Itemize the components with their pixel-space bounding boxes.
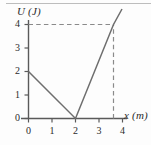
plot-area	[0, 0, 151, 145]
x-tick-label-2: 2	[69, 125, 83, 136]
x-tick-label-3: 3	[92, 125, 106, 136]
x-tick-label-0: 0	[22, 125, 36, 136]
x-tick-label-1: 1	[45, 125, 59, 136]
y-tick-label-1: 1	[10, 89, 20, 100]
potential-energy-graph-figure: U (J) x (m) 0 1 2 3 4 0 1 2 3 4	[0, 0, 151, 145]
y-tick-label-2: 2	[10, 65, 20, 76]
y-tick-label-3: 3	[10, 42, 20, 53]
y-axis-title: U (J)	[17, 5, 41, 17]
potential-energy-curve	[29, 9, 123, 119]
y-tick-label-4: 4	[10, 18, 20, 29]
x-axis-title: x (m)	[124, 109, 148, 121]
x-tick-label-4: 4	[116, 125, 130, 136]
y-tick-label-0: 0	[10, 112, 20, 123]
